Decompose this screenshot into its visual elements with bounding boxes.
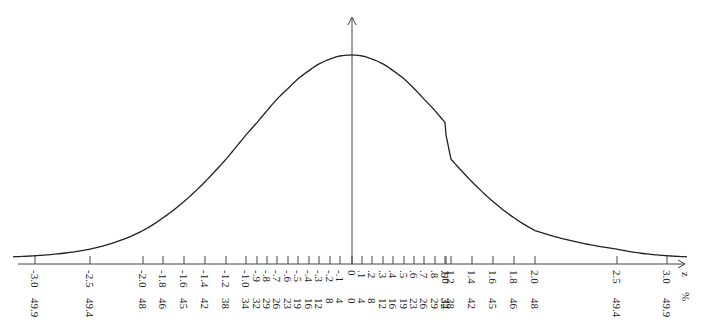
percent-tick-label: 46 bbox=[508, 298, 520, 310]
z-tick-label: .4 bbox=[387, 270, 399, 279]
z-tick-label: 2.0 bbox=[529, 270, 541, 284]
z-tick-label: -2.0 bbox=[137, 270, 149, 288]
percent-tick-label: 38 bbox=[220, 298, 232, 310]
z-tick-label: -2.5 bbox=[84, 270, 96, 288]
z-tick-label: 2.5 bbox=[611, 270, 623, 284]
x-axis-labels: -3.049.9-2.549.4-2.048-1.846-1.645-1.442… bbox=[29, 270, 673, 318]
percent-tick-label: 38 bbox=[445, 298, 457, 310]
z-tick-label: -1.2 bbox=[220, 270, 232, 287]
percent-axis-label: % bbox=[680, 292, 692, 301]
z-tick-label: -.5 bbox=[292, 270, 304, 282]
z-axis-label: z bbox=[680, 272, 692, 277]
z-tick-label: -.7 bbox=[271, 270, 283, 282]
percent-tick-label: 46 bbox=[157, 298, 169, 310]
z-tick-label: -.3 bbox=[313, 270, 325, 282]
percent-tick-label: 49.9 bbox=[661, 298, 673, 318]
bell-curve-path bbox=[13, 55, 687, 257]
z-tick-label: 1.6 bbox=[487, 270, 499, 284]
bell-curve bbox=[13, 55, 687, 257]
z-tick-label: -1.8 bbox=[157, 270, 169, 288]
percent-tick-label: 26 bbox=[271, 298, 283, 310]
chart-canvas: -3.049.9-2.549.4-2.048-1.846-1.645-1.442… bbox=[0, 0, 703, 333]
percent-tick-label: 48 bbox=[137, 298, 149, 310]
z-tick-label: -.1 bbox=[334, 270, 346, 282]
percent-tick-label: 49.4 bbox=[84, 298, 96, 318]
z-tick-label: 3.0 bbox=[661, 270, 673, 284]
z-tick-label: -1.6 bbox=[178, 270, 190, 288]
percent-tick-label: 16 bbox=[387, 298, 399, 310]
axes bbox=[18, 17, 685, 268]
z-tick-label: 1.2 bbox=[445, 270, 457, 284]
x-axis-ticks bbox=[35, 256, 667, 264]
percent-tick-label: 42 bbox=[199, 298, 211, 309]
percent-tick-label: 48 bbox=[529, 298, 541, 310]
percent-tick-label: 34 bbox=[240, 298, 252, 310]
percent-tick-label: 4 bbox=[334, 298, 346, 304]
normal-distribution-chart: -3.049.9-2.549.4-2.048-1.846-1.645-1.442… bbox=[0, 0, 703, 333]
percent-tick-label: 49.9 bbox=[29, 298, 41, 318]
percent-tick-label: 45 bbox=[487, 298, 499, 310]
percent-tick-label: 49.4 bbox=[611, 298, 623, 318]
percent-tick-label: 8 bbox=[366, 298, 378, 304]
z-tick-label: 1.8 bbox=[508, 270, 520, 284]
percent-tick-label: 12 bbox=[313, 298, 325, 309]
z-tick-label: -1.4 bbox=[199, 270, 211, 288]
z-tick-label: -1.0 bbox=[240, 270, 252, 288]
z-tick-label: .7 bbox=[418, 270, 430, 279]
z-tick-label: .2 bbox=[366, 270, 378, 278]
percent-tick-label: 42 bbox=[466, 298, 478, 309]
z-tick-label: -3.0 bbox=[29, 270, 41, 288]
percent-tick-label: 19 bbox=[292, 298, 304, 310]
z-tick-label: 1.4 bbox=[466, 270, 478, 284]
percent-tick-label: 26 bbox=[418, 298, 430, 310]
percent-tick-label: 45 bbox=[178, 298, 190, 310]
